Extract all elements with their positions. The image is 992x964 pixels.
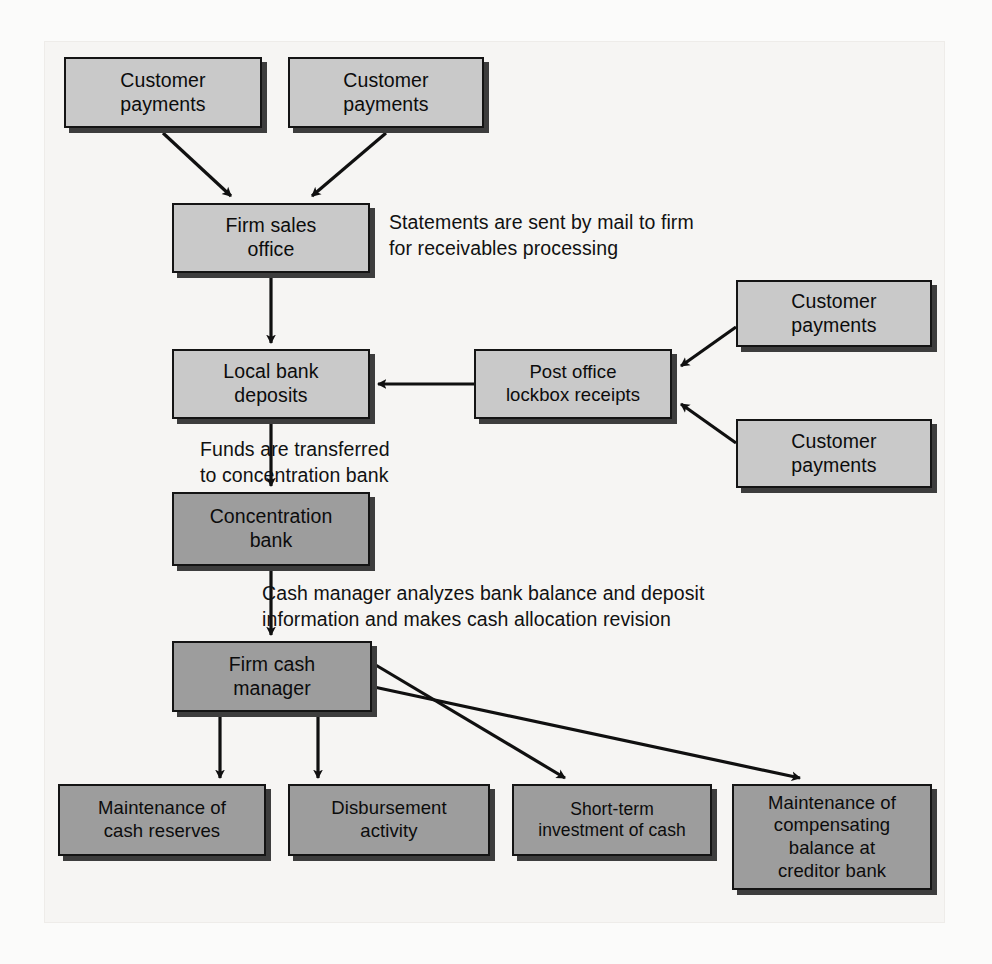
node-short-term-investment[interactable]: Short-term investment of cash xyxy=(512,784,712,856)
node-label: Customer payments xyxy=(785,430,882,478)
node-customer-payments-2[interactable]: Customer payments xyxy=(288,57,484,128)
note-cash-manager-analysis: Cash manager analyzes bank balance and d… xyxy=(262,581,705,633)
node-maintenance-compensating[interactable]: Maintenance of compensating balance at c… xyxy=(732,784,932,890)
node-label: Short-term investment of cash xyxy=(532,799,692,842)
edge-cp3-to-lockbox xyxy=(681,327,736,366)
edge-cp4-to-lockbox xyxy=(681,404,736,443)
node-label: Concentration bank xyxy=(204,505,339,553)
node-customer-payments-4[interactable]: Customer payments xyxy=(736,419,932,488)
node-maintenance-cash-reserves[interactable]: Maintenance of cash reserves xyxy=(58,784,266,856)
node-customer-payments-1[interactable]: Customer payments xyxy=(64,57,262,128)
node-label: Maintenance of compensating balance at c… xyxy=(762,792,902,882)
edge-cash-manager-to-compensating xyxy=(374,687,800,778)
node-post-office-lockbox[interactable]: Post office lockbox receipts xyxy=(474,349,672,419)
note-statements: Statements are sent by mail to firm for … xyxy=(389,210,694,262)
node-label: Maintenance of cash reserves xyxy=(92,797,232,842)
node-firm-cash-manager[interactable]: Firm cash manager xyxy=(172,641,372,712)
node-label: Firm cash manager xyxy=(223,653,322,701)
note-funds-transferred: Funds are transferred to concentration b… xyxy=(200,437,390,489)
node-label: Local bank deposits xyxy=(217,360,324,408)
edge-cp2-to-firm-sales xyxy=(312,133,386,196)
node-label: Customer payments xyxy=(785,290,882,338)
node-customer-payments-3[interactable]: Customer payments xyxy=(736,280,932,347)
edge-cp1-to-firm-sales xyxy=(163,133,231,196)
node-label: Post office lockbox receipts xyxy=(500,361,646,406)
node-concentration-bank[interactable]: Concentration bank xyxy=(172,492,370,566)
diagram-canvas: Customer payments Customer payments Firm… xyxy=(0,0,992,964)
node-label: Customer payments xyxy=(114,69,211,117)
node-firm-sales-office[interactable]: Firm sales office xyxy=(172,203,370,273)
node-label: Disbursement activity xyxy=(325,797,452,842)
node-label: Customer payments xyxy=(337,69,434,117)
node-label: Firm sales office xyxy=(220,214,323,262)
node-local-bank-deposits[interactable]: Local bank deposits xyxy=(172,349,370,419)
node-disbursement-activity[interactable]: Disbursement activity xyxy=(288,784,490,856)
